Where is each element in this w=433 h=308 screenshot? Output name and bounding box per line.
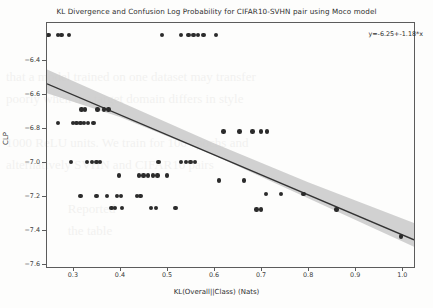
x-tick-label: 1.0: [387, 271, 417, 279]
x-tick-label: 0.9: [340, 271, 370, 279]
x-axis-label: KL(Overall||Class) (Nats): [0, 288, 433, 296]
x-axis-ticks: 0.30.40.50.60.70.80.91.0: [0, 0, 433, 308]
x-tick-label: 0.5: [152, 271, 182, 279]
x-tick-label: 0.6: [199, 271, 229, 279]
x-tick-label: 0.4: [105, 271, 135, 279]
y-axis-label: CLP: [2, 132, 10, 145]
x-tick-label: 0.3: [58, 271, 88, 279]
chart-figure: that a model trained on one dataset may …: [0, 0, 433, 308]
x-tick-label: 0.8: [293, 271, 323, 279]
x-tick-label: 0.7: [246, 271, 276, 279]
